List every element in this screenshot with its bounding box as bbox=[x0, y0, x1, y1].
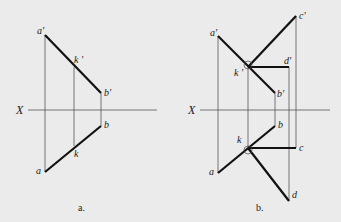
label-b: b bbox=[104, 119, 109, 130]
label-b-prime: b' bbox=[277, 88, 285, 99]
label-a-prime: a' bbox=[37, 25, 45, 36]
label-c-prime: c' bbox=[299, 10, 306, 21]
label-k: k bbox=[237, 134, 242, 145]
figure-b: X a' c' k ' d' b' b k c a d b. bbox=[187, 10, 330, 213]
segment-a-b bbox=[218, 126, 275, 173]
label-k: k bbox=[74, 148, 79, 159]
label-d: d bbox=[292, 189, 298, 200]
diagram-svg: X a' k ' b' b k a a. X a' c' k ' d' b' bbox=[0, 0, 341, 222]
x-axis-label: X bbox=[15, 103, 24, 117]
label-d-prime: d' bbox=[284, 55, 292, 66]
segment-a-prime-b-prime bbox=[45, 35, 101, 93]
caption-a: a. bbox=[78, 202, 85, 213]
label-b: b bbox=[278, 119, 283, 130]
label-k-prime: k ' bbox=[74, 54, 84, 65]
label-k-prime: k ' bbox=[234, 67, 244, 78]
x-axis-label: X bbox=[187, 103, 196, 117]
label-a: a bbox=[209, 166, 214, 177]
figure-a: X a' k ' b' b k a a. bbox=[15, 25, 157, 213]
label-a-prime: a' bbox=[210, 27, 218, 38]
caption-b: b. bbox=[256, 202, 264, 213]
label-c: c bbox=[299, 142, 304, 153]
segment-k-d bbox=[248, 148, 289, 201]
label-b-prime: b' bbox=[104, 87, 112, 98]
projection-diagram: X a' k ' b' b k a a. X a' c' k ' d' b' bbox=[0, 0, 341, 222]
label-a: a bbox=[36, 165, 41, 176]
segment-a-prime-b-prime bbox=[218, 36, 275, 93]
segment-a-b bbox=[45, 126, 101, 172]
